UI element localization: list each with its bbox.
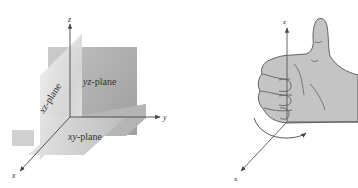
yz-plane-label: yz-plane — [82, 76, 117, 87]
xy-plane-label: xy-plane — [67, 131, 102, 142]
figure-canvas: z y x yz-plane xy-plane xz-plane z x — [0, 0, 358, 188]
xy-plane-left — [12, 130, 34, 146]
x-axis — [241, 122, 287, 171]
coordinate-planes-figure: z y x yz-plane xy-plane xz-plane — [11, 15, 167, 180]
x-axis-label: x — [234, 175, 238, 183]
hand-icon — [258, 18, 358, 123]
y-axis-label: y — [162, 113, 167, 122]
right-hand-rule-figure: z x — [234, 18, 358, 183]
z-axis-label: z — [67, 15, 72, 24]
x-axis-label: x — [11, 171, 16, 180]
z-axis-label: z — [283, 18, 286, 26]
